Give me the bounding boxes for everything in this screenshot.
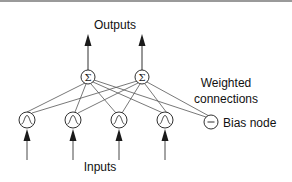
weighted-connections [27, 80, 209, 117]
sigma-icon: Σ [138, 72, 145, 83]
connection-input1-sum2 [32, 81, 137, 113]
connection-input4-sum1 [93, 82, 163, 113]
outputs-label: Outputs [94, 18, 136, 32]
input-arrows [24, 129, 169, 160]
bias-node [204, 115, 218, 129]
connection-bias-sum1 [94, 80, 206, 117]
output-arrow-2 [139, 34, 146, 70]
input-arrow-3 [116, 129, 123, 160]
input-arrow-1 [24, 129, 31, 160]
bias-node-label: Bias node [223, 116, 277, 130]
neural-network-diagram: Σ Σ [0, 0, 292, 182]
sum-node-2: Σ [135, 70, 149, 84]
input-node-2 [65, 112, 81, 128]
connection-input3-sum2 [122, 84, 140, 113]
output-arrow-1 [85, 34, 92, 70]
input-arrow-2 [70, 129, 77, 160]
input-node-1 [19, 112, 35, 128]
sigma-icon: Σ [84, 72, 91, 83]
weighted-connections-label-line1: Weighted [201, 76, 251, 90]
connection-input4-sum2 [145, 84, 167, 113]
input-node-4 [157, 112, 173, 128]
output-arrows [85, 34, 146, 70]
sum-node-1: Σ [81, 70, 95, 84]
weighted-connections-label-line2: connections [194, 92, 258, 106]
input-arrow-4 [162, 129, 169, 160]
inputs-label: Inputs [84, 160, 117, 174]
input-node-3 [111, 112, 127, 128]
